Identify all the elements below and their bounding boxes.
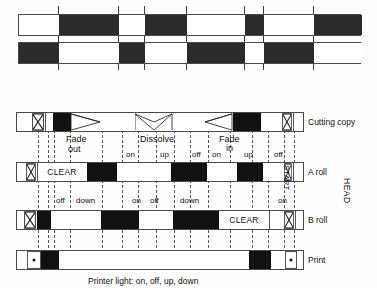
track-a-roll: CLEARSTART: [16, 162, 304, 182]
figure-caption: Printer light: on, off, up, down: [88, 276, 198, 286]
track-cell: [27, 251, 41, 269]
track-cutting-copy: [16, 112, 304, 132]
frame-dot-marker-icon: [290, 259, 293, 262]
printer-light-cue-label: off: [192, 150, 201, 159]
track-cell: [139, 211, 173, 229]
track-cell: [17, 251, 27, 269]
cue-line: [190, 120, 191, 258]
track-cell: [59, 251, 249, 269]
strip-segment: [145, 15, 187, 35]
track-diagram: Cutting copy CLEARSTART A roll CLEAR B r…: [0, 100, 377, 288]
x-frame-marker-icon: [32, 113, 44, 131]
track-cell: [87, 163, 117, 181]
track-cell: [293, 163, 305, 181]
printer-light-cue-label: off: [56, 196, 65, 205]
strip-segment: [59, 15, 119, 35]
printer-light-cue-label: up: [160, 150, 169, 159]
track-cell: [205, 113, 233, 131]
cue-line: [38, 120, 39, 258]
track-b-roll: CLEAR: [16, 210, 304, 230]
x-frame-marker-icon: [284, 211, 294, 229]
strip-segment: [19, 15, 59, 35]
track-label-cutting-copy: Cutting copy: [308, 117, 355, 127]
printer-light-cue-label: on: [212, 150, 221, 159]
track-cell: [17, 163, 25, 181]
x-frame-marker-icon: [282, 113, 292, 131]
track-cell: [293, 113, 305, 131]
track-cell: [31, 113, 46, 131]
cue-line: [268, 120, 269, 258]
cue-line: [138, 120, 139, 258]
fade-out-icon: [71, 113, 101, 131]
strip-segment: [314, 15, 362, 35]
annotation-label: out: [68, 144, 81, 154]
cue-line: [122, 120, 123, 258]
printer-light-cue-label: off: [274, 150, 283, 159]
track-cell: [53, 113, 71, 131]
strip-segment: [264, 15, 314, 35]
track-cell: [297, 251, 305, 269]
track-cell: [51, 211, 101, 229]
track-cell: [71, 113, 101, 131]
track-cell: [207, 163, 237, 181]
track-cell: [261, 113, 281, 131]
cue-line: [54, 120, 55, 258]
top-strip-b: [18, 42, 361, 64]
track-cell: [101, 211, 139, 229]
track-cell: [237, 163, 263, 181]
track-cell: [17, 113, 31, 131]
strip-segment: [245, 43, 264, 63]
strip-segment: [19, 43, 59, 63]
track-cell: [269, 211, 283, 229]
x-frame-marker-icon: [24, 211, 36, 229]
track-cell: [263, 163, 283, 181]
track-cell: CLEAR: [219, 211, 270, 229]
fade-in-icon: [205, 113, 233, 131]
annotation-label: Fade: [66, 134, 87, 144]
top-strip-a: [18, 14, 361, 36]
track-cell: [37, 211, 51, 229]
track-label-print: Print: [308, 255, 325, 265]
track-cell: [295, 211, 305, 229]
track-cell: [41, 251, 59, 269]
printer-light-cue-label: on: [278, 196, 287, 205]
track-cell: [173, 211, 219, 229]
track-cell: [285, 251, 297, 269]
track-cell: [249, 251, 271, 269]
annotation-label: in: [226, 143, 233, 153]
strip-segment: [119, 43, 145, 63]
annotation-label: Dissolve: [140, 134, 174, 144]
track-label-b-roll: B roll: [308, 215, 327, 225]
head-label: HEAD: [342, 178, 352, 204]
printer-light-cue-label: off: [150, 196, 159, 205]
strip-segment: [187, 43, 245, 63]
track-cell: [173, 113, 205, 131]
start-label: START: [282, 165, 291, 190]
cue-line: [208, 120, 209, 258]
printer-light-cue-label: up: [244, 150, 253, 159]
strip-segment: [145, 43, 187, 63]
strip-segment: [59, 43, 119, 63]
track-cell: [233, 113, 261, 131]
track-cell: [117, 163, 171, 181]
track-label-a-roll: A roll: [308, 167, 327, 177]
x-frame-marker-icon: [26, 163, 36, 181]
track-cell: [23, 211, 38, 229]
track-cell: [101, 113, 135, 131]
cue-line: [48, 120, 49, 258]
cue-line: [252, 120, 253, 258]
frame-dot-marker-icon: [33, 259, 36, 262]
printer-light-cue-label: on: [126, 150, 135, 159]
track-cell: [271, 251, 285, 269]
strip-segment: [314, 43, 362, 63]
track-cell: [171, 163, 207, 181]
cue-line: [102, 120, 103, 258]
track-cell: [135, 113, 173, 131]
printer-light-cue-label: down: [180, 196, 199, 205]
cue-line: [294, 120, 295, 258]
printer-light-cue-label: down: [76, 196, 95, 205]
cell-text: CLEAR: [47, 167, 76, 177]
cell-text: CLEAR: [229, 215, 258, 225]
strip-segment: [187, 15, 245, 35]
cue-line: [174, 120, 175, 258]
